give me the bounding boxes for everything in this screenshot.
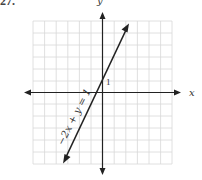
- coordinate-graph: x y 1 −2x + y = 1: [0, 0, 202, 180]
- equation-label: −2x + y = 1: [55, 87, 93, 147]
- y-axis-label: y: [96, 0, 103, 6]
- tick-label-1: 1: [106, 77, 111, 87]
- line-bottom-arrow-icon: [63, 154, 71, 164]
- y-axis-top-arrow-icon: [100, 12, 106, 19]
- x-axis-left-arrow-icon: [24, 90, 31, 96]
- line-top-arrow-icon: [122, 24, 130, 33]
- y-axis-bottom-arrow-icon: [100, 168, 106, 175]
- equation-line: [63, 24, 129, 164]
- x-axis-label: x: [189, 87, 195, 98]
- x-axis-right-arrow-icon: [174, 90, 181, 96]
